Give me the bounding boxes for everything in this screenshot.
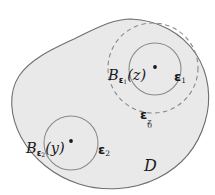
ball-y-label-prefix: B bbox=[26, 140, 37, 156]
domain-region-shape bbox=[12, 19, 209, 189]
ball-y-radius-label: ε2 bbox=[98, 143, 110, 156]
ball-z-label-argument: (z) bbox=[127, 67, 146, 83]
ball-y-label-subscript-index: 2 bbox=[41, 151, 45, 158]
ball-z-center-dot bbox=[153, 65, 157, 69]
diagram-canvas bbox=[0, 0, 215, 195]
ball-y-center-dot bbox=[69, 139, 73, 143]
ball-z-radius-label: ε1 bbox=[174, 70, 186, 83]
eps2-index: 2 bbox=[105, 149, 110, 158]
ball-z-label-subscript-index: 1 bbox=[123, 78, 127, 85]
ball-y-label: Bε2(y) bbox=[26, 141, 65, 156]
domain-label: D bbox=[144, 158, 157, 174]
eps0z-label: εz0 bbox=[140, 108, 155, 121]
ball-y-label-argument: (y) bbox=[45, 140, 65, 156]
eps0z-subscript: 0 bbox=[147, 122, 152, 130]
ball-z-label: Bε1(z) bbox=[108, 68, 146, 83]
set-diagram-figure: Bε1(z) ε1 εz0 Bε2(y) ε2 D bbox=[0, 0, 215, 195]
eps1-index: 1 bbox=[181, 76, 186, 85]
ball-z-label-prefix: B bbox=[108, 67, 119, 83]
